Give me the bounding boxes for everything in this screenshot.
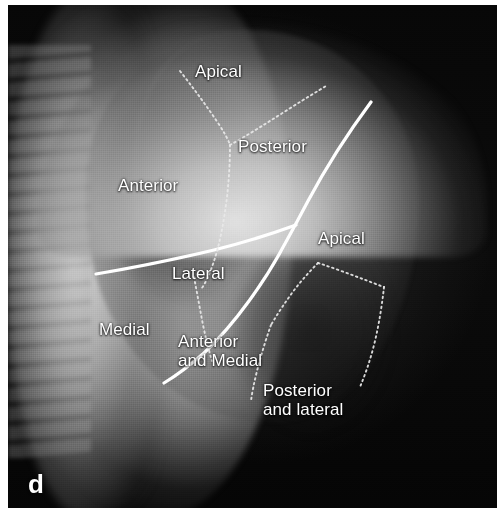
film-grain-texture: [8, 5, 497, 508]
radiograph-figure: ApicalPosteriorAnteriorApicalLateralMedi…: [0, 0, 500, 516]
segment-label-apical-lower: Apical: [318, 229, 365, 248]
segment-label-apical-upper: Apical: [195, 62, 242, 81]
segment-label-anterior-upper: Anterior: [118, 176, 178, 195]
segment-label-lateral-middle: Lateral: [172, 264, 225, 283]
lateral-chest-xray-image: [8, 5, 497, 508]
figure-panel-letter: d: [28, 471, 44, 497]
segment-label-anterior-and-medial: Anterior and Medial: [178, 332, 262, 370]
segment-label-medial-middle: Medial: [99, 320, 150, 339]
segment-label-posterior-and-lateral: Posterior and lateral: [263, 381, 344, 419]
segment-label-posterior-upper: Posterior: [238, 137, 307, 156]
xray-plate: [8, 5, 497, 508]
